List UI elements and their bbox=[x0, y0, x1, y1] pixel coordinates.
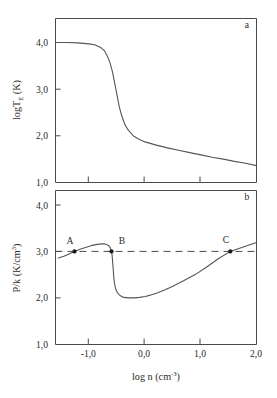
panel-a-ylabel-main: logT bbox=[11, 100, 22, 120]
svg-text:P/k (K/cm3): P/k (K/cm3) bbox=[10, 244, 23, 293]
panel-a-ytick-1: 1,0 bbox=[36, 177, 48, 188]
xtick-2: 2,0 bbox=[250, 348, 262, 359]
svg-text:logTE (K): logTE (K) bbox=[11, 80, 24, 120]
panel-b-frame bbox=[56, 191, 257, 345]
panel-b-ytick-4: 4,0 bbox=[36, 200, 48, 211]
xtick-1: 1,0 bbox=[194, 348, 206, 359]
xtick-0: 0,0 bbox=[138, 348, 150, 359]
panel-b-ylabel: P/k (K/cm3) bbox=[10, 244, 23, 293]
point-label-c: C bbox=[223, 234, 229, 245]
x-axis-labels: -1,0 0,0 1,0 2,0 bbox=[81, 348, 262, 359]
panel-a-curve bbox=[56, 43, 257, 166]
figure-svg: 4,0 3,0 2,0 1,0 logTE (K) a bbox=[0, 0, 277, 398]
figure-container: 4,0 3,0 2,0 1,0 logTE (K) a bbox=[0, 0, 277, 398]
panel-a-x-ticks bbox=[88, 177, 200, 183]
point-label-a: A bbox=[67, 235, 74, 246]
panel-b-x-ticks bbox=[88, 339, 200, 345]
point-marker-c bbox=[228, 250, 232, 254]
panel-b-ylabel-main: P/k (K/cm bbox=[11, 250, 23, 292]
panel-b-curve bbox=[58, 243, 256, 298]
panel-a-ylabel-unit: (K) bbox=[11, 80, 23, 97]
panel-b-ytick-2: 2,0 bbox=[36, 292, 48, 303]
panel-b-ytick-1: 1,0 bbox=[36, 339, 48, 350]
panel-b-ylabel-tail: ) bbox=[11, 244, 23, 247]
panel-a-ytick-2: 2,0 bbox=[36, 130, 48, 141]
panel-a: 4,0 3,0 2,0 1,0 logTE (K) a bbox=[11, 19, 257, 189]
xtick-minus1: -1,0 bbox=[81, 348, 96, 359]
panel-b: 4,0 3,0 2,0 1,0 P/k (K/cm3) b A bbox=[10, 191, 256, 351]
x-axis-title: log n (cm-3) bbox=[132, 370, 180, 383]
panel-a-y-ticks bbox=[56, 43, 61, 136]
point-marker-b bbox=[110, 250, 114, 254]
x-axis-title-tail: ) bbox=[177, 371, 180, 383]
panel-b-label: b bbox=[245, 191, 250, 202]
point-label-b: B bbox=[119, 235, 125, 246]
panel-a-label: a bbox=[245, 19, 250, 30]
panel-a-ytick-3: 3,0 bbox=[36, 84, 48, 95]
panel-b-ytick-3: 3,0 bbox=[36, 246, 48, 257]
point-marker-a bbox=[73, 250, 77, 254]
x-axis-title-main: log n (cm bbox=[132, 371, 171, 383]
panel-a-ylabel: logTE (K) bbox=[11, 80, 24, 120]
panel-a-ytick-4: 4,0 bbox=[36, 37, 48, 48]
